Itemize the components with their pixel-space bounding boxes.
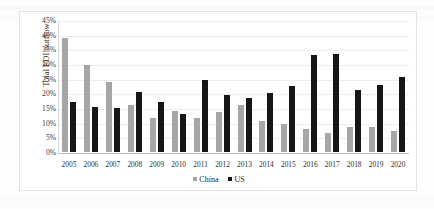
bar-us-2007 xyxy=(114,108,120,152)
chart-figure: Total FDI outflow 45%40%35%30%25%20%15%1… xyxy=(0,0,434,209)
legend-item-us[interactable]: US xyxy=(228,175,244,184)
legend-item-china[interactable]: China xyxy=(193,175,218,184)
bar-us-2016 xyxy=(311,55,317,152)
scan-artifact-band xyxy=(0,6,434,10)
legend-swatch-icon xyxy=(228,177,232,181)
bar-china-2008 xyxy=(128,105,134,152)
bar-us-2010 xyxy=(180,114,186,152)
bar-group xyxy=(147,20,169,152)
y-axis-tick: 40% xyxy=(30,32,56,40)
bar-group xyxy=(256,20,278,152)
bar-us-2006 xyxy=(92,107,98,152)
y-axis-tick: 45% xyxy=(30,17,56,25)
bar-group xyxy=(213,20,235,152)
bar-group xyxy=(366,20,388,152)
bar-group xyxy=(59,20,81,152)
scan-artifact-band xyxy=(0,196,434,201)
y-axis-tick: 5% xyxy=(30,134,56,142)
bar-china-2014 xyxy=(259,121,265,152)
bar-us-2017 xyxy=(333,54,339,152)
bar-group xyxy=(191,20,213,152)
bar-china-2018 xyxy=(347,127,353,152)
y-axis-tick-labels: 45%40%35%30%25%20%15%10%5%0% xyxy=(30,21,56,154)
bar-group xyxy=(344,20,366,152)
bar-group xyxy=(103,20,125,152)
y-axis-tick: 10% xyxy=(30,120,56,128)
bar-group xyxy=(81,20,103,152)
bar-series-layer xyxy=(59,21,409,153)
y-axis-tick: 25% xyxy=(30,76,56,84)
bar-group xyxy=(235,20,257,152)
chart-plot-frame: Total FDI outflow 45%40%35%30%25%20%15%1… xyxy=(19,11,417,191)
bar-group xyxy=(169,20,191,152)
bar-china-2011 xyxy=(194,118,200,152)
bar-china-2017 xyxy=(325,133,331,152)
y-axis-tick: 15% xyxy=(30,105,56,113)
legend-label: China xyxy=(199,175,218,184)
bar-china-2015 xyxy=(281,124,287,152)
y-axis-tick: 0% xyxy=(30,149,56,157)
bar-us-2013 xyxy=(246,98,252,152)
bar-group xyxy=(322,20,344,152)
bar-us-2011 xyxy=(202,80,208,152)
bar-us-2015 xyxy=(289,86,295,152)
bar-china-2012 xyxy=(216,112,222,152)
bar-us-2009 xyxy=(158,102,164,152)
bar-us-2005 xyxy=(70,102,76,152)
bar-us-2014 xyxy=(267,93,273,152)
x-axis-tick: 2020 xyxy=(384,160,412,169)
x-axis-tick-labels: 2005200620072008200920102011201220132014… xyxy=(58,157,409,169)
bar-group xyxy=(278,20,300,152)
bar-us-2020 xyxy=(399,77,405,152)
bar-china-2013 xyxy=(238,105,244,152)
bar-us-2018 xyxy=(355,90,361,152)
bar-group xyxy=(300,20,322,152)
y-axis-tick: 35% xyxy=(30,46,56,54)
y-axis-tick: 20% xyxy=(30,90,56,98)
bar-china-2016 xyxy=(303,129,309,152)
bar-us-2012 xyxy=(224,95,230,152)
bar-group xyxy=(125,20,147,152)
bar-china-2007 xyxy=(106,82,112,152)
bar-group xyxy=(388,20,410,152)
legend-label: US xyxy=(234,175,244,184)
legend-swatch-icon xyxy=(193,177,197,181)
bar-us-2008 xyxy=(136,92,142,152)
y-axis-tick: 30% xyxy=(30,61,56,69)
bar-china-2005 xyxy=(62,38,68,152)
bar-china-2020 xyxy=(391,131,397,152)
bar-us-2019 xyxy=(377,85,383,152)
bar-china-2019 xyxy=(369,127,375,152)
chart-legend: ChinaUS xyxy=(20,172,418,186)
bar-china-2009 xyxy=(150,118,156,152)
bar-china-2006 xyxy=(84,65,90,152)
bar-china-2010 xyxy=(172,111,178,152)
plot-area xyxy=(58,21,409,154)
